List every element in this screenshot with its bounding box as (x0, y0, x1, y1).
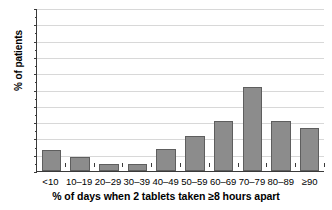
x-tick-mark (238, 163, 239, 167)
x-tick-mark (295, 163, 296, 167)
x-tick-mark (94, 163, 95, 167)
bar (156, 149, 176, 171)
y-axis-title: % of patients (13, 0, 24, 126)
x-tick-mark (122, 163, 123, 167)
plot-area: 05101520253035404550 (36, 9, 324, 172)
x-tick-label: 30–39 (122, 176, 151, 187)
bar-slot (209, 9, 238, 171)
x-axis-tick-labels: <1010–1920–2930–3940–4950–5960–6970–7980… (36, 176, 324, 187)
bar (185, 136, 205, 171)
x-tick-label: 10–19 (65, 176, 94, 187)
x-tick-mark (180, 163, 181, 167)
bar (128, 164, 148, 171)
x-tick-label: 50–59 (180, 176, 209, 187)
x-tick-label: ≥90 (295, 176, 324, 187)
x-tick-mark (65, 163, 66, 167)
x-axis-title: % of days when 2 tablets taken ≥8 hours … (0, 190, 332, 202)
bar (243, 87, 263, 171)
x-tick-label: 60–69 (209, 176, 238, 187)
bar (214, 121, 234, 171)
x-tick-label: <10 (36, 176, 65, 187)
bar-slot (37, 9, 66, 171)
bar-chart: % of patients 05101520253035404550 <1010… (0, 0, 332, 210)
x-tick-mark (209, 163, 210, 167)
x-tick-label: 40–49 (151, 176, 180, 187)
bar (70, 157, 90, 171)
x-tick-mark (266, 163, 267, 167)
x-tick-label: 80–89 (266, 176, 295, 187)
bar-slot (152, 9, 181, 171)
bar-slot (181, 9, 210, 171)
bar-slot (66, 9, 95, 171)
y-tick-mark (34, 172, 37, 173)
x-tick-label: 70–79 (238, 176, 267, 187)
x-tick-mark (36, 163, 37, 167)
x-tick-mark (151, 163, 152, 167)
bar (271, 121, 291, 171)
bar-slot (123, 9, 152, 171)
bar-slot (267, 9, 296, 171)
x-tick-mark (324, 163, 325, 167)
x-tick-label: 20–29 (94, 176, 123, 187)
bar-series (37, 9, 324, 171)
bar-slot (295, 9, 324, 171)
bar-slot (238, 9, 267, 171)
bar (42, 150, 62, 171)
bar (99, 164, 119, 171)
bar-slot (94, 9, 123, 171)
bar (300, 128, 320, 171)
